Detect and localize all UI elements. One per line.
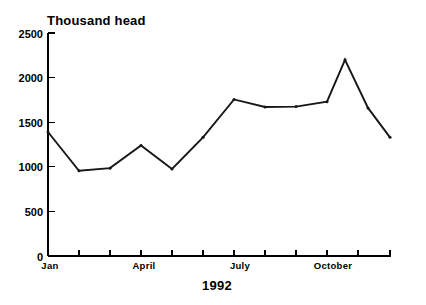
data-point (78, 169, 81, 172)
data-point (140, 144, 143, 147)
x-axis-tick-labels: Jan April July October (41, 260, 352, 271)
data-point (109, 167, 112, 170)
x-tick-label-april: April (132, 260, 155, 271)
data-series-line (48, 60, 390, 171)
chart-title: Thousand head (47, 13, 146, 28)
y-tick-label-2000: 2000 (19, 72, 43, 84)
y-tick-label-2500: 2500 (19, 28, 43, 40)
y-axis-tick-labels: 2500 2000 1500 1000 500 0 (19, 28, 43, 263)
x-axis-caption: 1992 (202, 278, 232, 293)
y-axis-ticks (48, 33, 55, 256)
data-point (202, 136, 205, 139)
data-point (326, 100, 329, 103)
data-point (171, 168, 174, 171)
data-point (47, 131, 50, 134)
data-point (389, 136, 392, 139)
chart-canvas: Thousand head 2500 2000 1500 1000 500 0 (0, 0, 426, 305)
x-tick-label-jan: Jan (41, 260, 58, 271)
data-series-points (47, 58, 392, 172)
data-point (295, 105, 298, 108)
data-point (344, 58, 347, 61)
line-chart: Thousand head 2500 2000 1500 1000 500 0 (0, 0, 426, 305)
data-point (264, 106, 267, 109)
y-tick-label-1000: 1000 (19, 161, 43, 173)
data-point (233, 98, 236, 101)
y-tick-label-500: 500 (25, 206, 43, 218)
x-tick-label-october: October (314, 260, 353, 271)
y-tick-label-1500: 1500 (19, 117, 43, 129)
x-tick-label-july: July (230, 260, 251, 271)
x-axis-ticks (48, 250, 390, 256)
data-point (367, 106, 370, 109)
